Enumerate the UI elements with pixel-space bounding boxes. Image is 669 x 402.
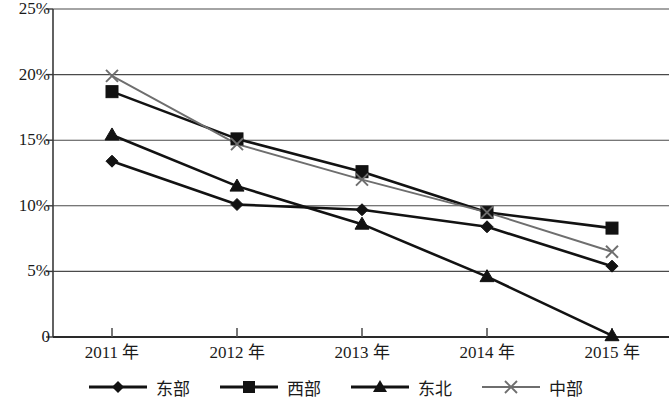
y-axis-label: 20% xyxy=(4,66,50,83)
x-axis-label: 2015 年 xyxy=(550,344,669,361)
y-axis-label: 15% xyxy=(4,131,50,148)
diamond-marker xyxy=(87,377,149,397)
y-axis-label: 0 xyxy=(4,328,50,345)
line-chart: 05%10%15%20%25% 2011 年2012 年2013 年2014 年… xyxy=(0,0,669,402)
y-axis-tick-labels: 05%10%15%20%25% xyxy=(0,0,50,402)
diamond-marker xyxy=(481,221,493,233)
legend-item[interactable]: 中部 xyxy=(480,375,583,400)
diamond-marker xyxy=(106,155,118,167)
y-axis-label: 5% xyxy=(4,262,50,279)
series-line-triangle xyxy=(112,135,612,336)
legend-label: 中部 xyxy=(549,375,583,400)
x-axis-label: 2012 年 xyxy=(175,344,299,361)
legend-item[interactable]: 东北 xyxy=(349,375,452,400)
chart-plot-area xyxy=(0,0,669,402)
square-marker xyxy=(606,222,618,234)
diamond-marker xyxy=(606,260,618,272)
legend-label: 东部 xyxy=(156,375,190,400)
chart-legend: 东部西部东北中部 xyxy=(0,372,669,402)
y-axis-label: 10% xyxy=(4,197,50,214)
triangle-marker xyxy=(349,377,411,397)
diamond-marker xyxy=(231,198,243,210)
x-axis-label: 2011 年 xyxy=(50,344,174,361)
square-marker xyxy=(106,86,118,98)
x-axis-label: 2013 年 xyxy=(300,344,424,361)
legend-item[interactable]: 东部 xyxy=(87,375,190,400)
legend-label: 西部 xyxy=(287,375,321,400)
legend-item[interactable]: 西部 xyxy=(218,375,321,400)
square-marker xyxy=(218,377,280,397)
legend-label: 东北 xyxy=(418,375,452,400)
x-marker xyxy=(480,377,542,397)
triangle-marker xyxy=(105,128,119,140)
x-axis-label: 2014 年 xyxy=(425,344,549,361)
y-axis-label: 25% xyxy=(4,0,50,17)
